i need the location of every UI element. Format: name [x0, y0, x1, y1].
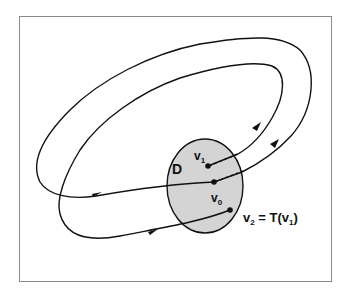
point-v2: [227, 207, 233, 213]
point-v1: [205, 163, 211, 169]
poincare-section-diagram: D v1 v0 v2 = T(v1): [0, 0, 348, 293]
section-label: D: [172, 161, 182, 177]
point-v0: [211, 179, 217, 185]
figure-frame: [20, 17, 332, 282]
